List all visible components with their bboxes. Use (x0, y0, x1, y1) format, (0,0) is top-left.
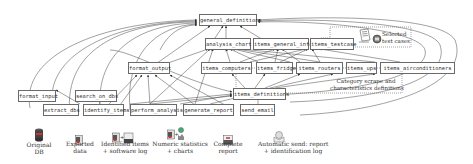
node-items-computers: items_computers (201, 62, 252, 74)
node-items-fridges: items_fridges (256, 62, 293, 74)
node-items-general-info: items_general_info (253, 38, 309, 50)
annotation-line: characteristics definitions (330, 85, 402, 92)
node-items-definitions: items_definitions (233, 88, 286, 100)
node-format-output: format_output (128, 62, 170, 74)
node-search-on-dbs: search_on_dbs (75, 90, 117, 102)
node-items-ups: items_ups (346, 62, 377, 74)
magnifier-icon (372, 31, 382, 50)
label-line: report (212, 148, 244, 155)
node-identify-items: identify_items (83, 104, 124, 116)
node-items-airconditioners: items_airconditioners (380, 62, 455, 74)
pipeline-label-original-db: Original DB (22, 142, 56, 155)
pipeline-label-complete-report: Complete report (212, 141, 244, 154)
pipeline-label-identified-items: Identified items + software log (100, 141, 150, 154)
node-extract-dbs: extract_dbs (43, 104, 79, 116)
pipeline-label-exported-data: Exported data (63, 141, 97, 154)
label-line: + identification log (258, 148, 328, 155)
node-generate-report: generate_report (183, 104, 234, 116)
annotation-line: Category scrape and (330, 78, 402, 85)
node-format-input: format_input (18, 90, 56, 102)
label-line: + charts (152, 148, 208, 155)
annotation-line: Selected (382, 31, 410, 38)
label-line: DB (22, 149, 56, 156)
node-items-routers: items_routers (296, 62, 343, 74)
node-perform-analysis: perform_analysis (130, 104, 177, 116)
annotation-selected-test-cases: Selected test cases (382, 31, 410, 44)
pipeline-label-numeric-statistics: Numeric statistics + charts (152, 141, 208, 154)
node-general-definitions: general_definitions (199, 14, 257, 26)
pipeline-label-automatic-send: Automatic send: report + identification … (258, 141, 328, 154)
label-line: data (63, 148, 97, 155)
annotation-category-scrape: Category scrape and characteristics defi… (330, 78, 402, 92)
test-document-icon (358, 28, 372, 48)
node-send-email: send_email (240, 104, 275, 116)
node-items-testcase: items_testcase (310, 38, 354, 50)
annotation-line: test cases (382, 38, 410, 45)
label-line: + software log (100, 148, 150, 155)
node-analysis-chart: analysis_chart (205, 38, 251, 50)
